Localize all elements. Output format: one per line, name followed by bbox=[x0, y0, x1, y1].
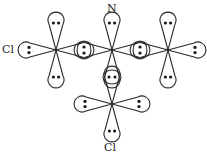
bond-left-center bbox=[77, 41, 91, 59]
label-cl-bottom: Cl bbox=[104, 142, 116, 153]
bond-center-bottom bbox=[103, 70, 121, 84]
label-cl-left: Cl bbox=[2, 44, 14, 55]
bond-center-right bbox=[133, 41, 147, 59]
atom-bottom bbox=[74, 66, 150, 142]
atom-left bbox=[18, 12, 94, 88]
orbital-diagram bbox=[0, 0, 207, 158]
label-n: N bbox=[107, 3, 117, 14]
atom-right bbox=[130, 12, 206, 88]
atom-center bbox=[74, 12, 150, 88]
